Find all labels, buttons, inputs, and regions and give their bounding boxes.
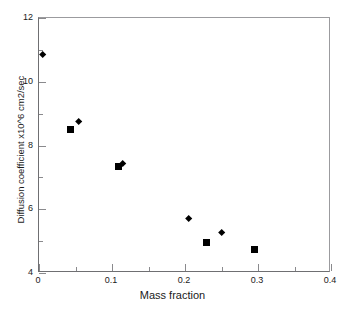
x-axis-tick-label: 0.3 (251, 276, 264, 285)
data-point-square (67, 126, 74, 133)
y-axis-tick (39, 209, 46, 210)
x-axis-tick (112, 264, 113, 271)
y-axis-tick (39, 18, 46, 19)
y-axis-tick-label: 10 (23, 76, 33, 85)
x-axis-tick (149, 267, 150, 271)
x-axis-tick (39, 264, 40, 271)
x-axis-title: Mass fraction (0, 289, 345, 301)
data-point-diamond (218, 229, 226, 237)
x-axis-tick (222, 267, 223, 271)
y-axis-tick-label: 4 (28, 268, 33, 277)
y-axis-tick (39, 82, 46, 83)
data-point-square (203, 239, 210, 246)
x-axis-tick-label: 0.4 (324, 276, 337, 285)
data-point-diamond (39, 51, 47, 59)
data-point-square (251, 246, 258, 253)
scatter-chart-figure: Mass fraction Diffusion coefficient x10^… (0, 0, 345, 309)
plot-area (38, 17, 330, 272)
x-axis-tick (295, 267, 296, 271)
data-point-diamond (75, 118, 83, 126)
y-axis-tick (39, 273, 46, 274)
y-axis-tick (39, 146, 46, 147)
y-axis-tick (39, 114, 43, 115)
y-axis-tick (39, 241, 43, 242)
x-axis-tick-label: 0.2 (178, 276, 191, 285)
y-axis-tick (39, 177, 43, 178)
x-axis-tick (258, 264, 259, 271)
x-axis-tick (331, 264, 332, 271)
y-axis-tick-label: 12 (23, 13, 33, 22)
x-axis-tick (185, 264, 186, 271)
x-axis-tick (76, 267, 77, 271)
x-axis-tick-label: 0.1 (105, 276, 118, 285)
y-axis-tick-label: 8 (28, 140, 33, 149)
y-axis-tick-label: 6 (28, 204, 33, 213)
data-point-diamond (185, 215, 193, 223)
x-axis-tick-label: 0 (35, 276, 40, 285)
